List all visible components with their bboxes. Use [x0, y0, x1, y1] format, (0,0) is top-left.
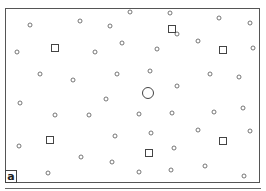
- small-circle-marker: [169, 168, 173, 172]
- small-circle-marker: [196, 39, 200, 43]
- small-circle-marker: [79, 155, 83, 159]
- square-marker: [47, 137, 54, 144]
- square-marker: [146, 150, 153, 157]
- small-circle-marker: [251, 46, 255, 50]
- square-marker: [169, 26, 176, 33]
- small-circle-marker: [242, 174, 246, 178]
- small-circle-marker: [148, 69, 152, 73]
- small-circle-marker: [87, 113, 91, 117]
- small-circle-marker: [15, 50, 19, 54]
- small-circle-marker: [248, 21, 252, 25]
- small-circle-marker: [78, 19, 82, 23]
- square-marker: [220, 47, 227, 54]
- bottom-rule: [5, 188, 261, 189]
- small-circle-marker: [172, 146, 176, 150]
- small-circle-marker: [241, 106, 245, 110]
- small-circle-marker: [170, 111, 174, 115]
- small-circle-marker: [18, 101, 22, 105]
- small-circle-marker: [115, 72, 119, 76]
- small-circle-marker: [248, 129, 252, 133]
- small-circle-marker: [137, 170, 141, 174]
- small-circle-marker: [212, 110, 216, 114]
- large-circle-marker: [143, 88, 154, 99]
- small-circle-marker: [217, 16, 221, 20]
- small-circle-marker: [93, 50, 97, 54]
- small-circle-marker: [38, 72, 42, 76]
- small-circle-marker: [17, 144, 21, 148]
- small-circle-marker: [108, 24, 112, 28]
- small-circle-marker: [208, 72, 212, 76]
- small-circle-marker: [203, 164, 207, 168]
- small-circle-marker: [175, 84, 179, 88]
- square-marker: [220, 138, 227, 145]
- small-circle-marker: [110, 160, 114, 164]
- small-circle-marker: [168, 11, 172, 15]
- small-circle-marker: [120, 41, 124, 45]
- small-circle-marker: [28, 23, 32, 27]
- small-circle-marker: [46, 171, 50, 175]
- small-circle-marker: [113, 134, 117, 138]
- square-marker: [52, 45, 59, 52]
- small-circle-marker: [137, 112, 141, 116]
- small-circle-marker: [237, 75, 241, 79]
- panel-label: a: [5, 170, 17, 183]
- small-circle-marker: [155, 47, 159, 51]
- small-circle-marker: [104, 97, 108, 101]
- small-circle-marker: [53, 113, 57, 117]
- small-circle-marker: [128, 10, 132, 14]
- small-circle-marker: [71, 78, 75, 82]
- marker-field: [0, 0, 266, 191]
- small-circle-marker: [149, 131, 153, 135]
- small-circle-marker: [196, 128, 200, 132]
